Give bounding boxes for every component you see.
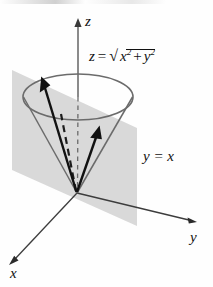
axis-label-x: x <box>10 266 17 281</box>
axis-label-y: y <box>190 230 197 245</box>
axis-label-z: z <box>85 14 91 29</box>
radical-icon: √ <box>109 47 118 64</box>
surface-equation-radicand: x2+y2 <box>118 48 155 64</box>
surface-equation-label: z=√x2+y2 <box>89 48 155 64</box>
plane-equation-label: y = x <box>143 149 174 164</box>
y-axis-arrowhead-icon <box>188 218 198 224</box>
diagram-canvas <box>0 0 213 287</box>
x-axis-line <box>15 193 77 259</box>
radical-vinculum-icon <box>126 49 155 50</box>
cone-plane-intersection-figure: z y x z=√x2+y2 y = x <box>0 0 213 287</box>
radicand-plus: + <box>133 48 141 64</box>
radicand-x: x <box>120 48 127 64</box>
surface-equation-equals: = <box>98 48 106 64</box>
surface-equation-lhs: z <box>89 48 95 64</box>
z-axis-arrowhead-icon <box>74 18 81 27</box>
